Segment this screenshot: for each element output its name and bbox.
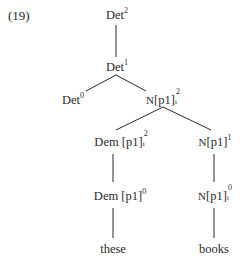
node-det0: Det0: [62, 93, 84, 107]
leaf-books: books: [199, 242, 229, 256]
edge-det1-det0: [86, 75, 116, 91]
edge-np-np1: [163, 107, 211, 130]
node-np-i-2: N[p1]2i: [146, 93, 182, 107]
node-np-i-0: N[p1]0i: [198, 189, 234, 203]
example-number: (19): [8, 8, 30, 24]
edge-np-dem: [116, 107, 163, 130]
node-np-1: N[p1]1: [199, 135, 232, 149]
node-det2: Det2: [106, 8, 128, 22]
edge-det1-np: [116, 75, 146, 91]
node-dem-0: Dem [p1]0: [94, 189, 146, 203]
node-det1: Det1: [106, 60, 128, 74]
leaf-these: these: [100, 242, 126, 256]
tree-edges: [0, 0, 246, 261]
node-dem-i-2: Dem [p1]2i: [94, 135, 149, 149]
